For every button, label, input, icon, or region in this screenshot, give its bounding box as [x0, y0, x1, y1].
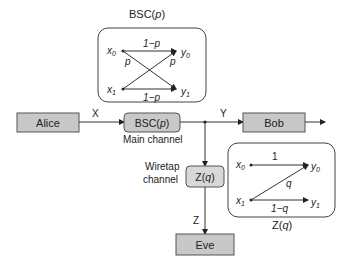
alice-node: Alice	[17, 113, 79, 132]
z-detail-title: Z(q)	[272, 219, 292, 231]
bsc-y0-label: y0	[180, 47, 190, 59]
eve-node: Eve	[176, 234, 234, 255]
wiretap-channel-node: Z(q)	[186, 166, 224, 187]
z-cross-prob: q	[286, 178, 292, 189]
bsc-bottom-prob: 1−p	[143, 92, 160, 103]
x-signal-label: X	[92, 108, 99, 119]
z-signal-label: Z	[193, 215, 199, 226]
z-x1-label: x1	[235, 195, 245, 207]
z-bottom-prob: 1−q	[271, 203, 288, 214]
bob-node: Bob	[243, 113, 305, 132]
y-signal-label: Y	[220, 108, 227, 119]
wiretap-channel-diagram: BSC(p) x0 x1 y0 y1 1−p 1−p p p Alice X B…	[0, 0, 352, 264]
bsc-x1-label: x1	[106, 84, 116, 96]
z-y0-label: y0	[310, 161, 320, 173]
bsc-x0-label: x0	[106, 45, 116, 57]
bsc-cross-right-prob: p	[169, 56, 176, 67]
z-x0-label: x0	[235, 159, 245, 171]
wiretap-label: Z(q)	[195, 171, 214, 183]
eve-label: Eve	[196, 239, 215, 251]
main-channel-caption: Main channel	[123, 134, 182, 145]
bsc-top-prob: 1−p	[143, 38, 160, 49]
bsc-cross-left-prob: p	[124, 56, 131, 67]
z-y1-label: y1	[310, 197, 320, 209]
bob-label: Bob	[264, 117, 284, 129]
z-detail: x0 x1 y0 y1 1 q 1−q Z(q)	[228, 143, 335, 231]
bsc-detail: BSC(p) x0 x1 y0 y1 1−p 1−p p p	[98, 8, 206, 103]
z-top-prob: 1	[272, 151, 278, 162]
wiretap-caption-line2: channel	[143, 174, 178, 185]
alice-label: Alice	[36, 117, 60, 129]
main-channel-label: BSC(p)	[135, 117, 169, 129]
bsc-detail-title: BSC(p)	[129, 8, 165, 20]
wiretap-caption-line1: Wiretap	[145, 161, 180, 172]
main-channel-node: BSC(p) Main channel	[123, 113, 182, 145]
bsc-y1-label: y1	[180, 86, 190, 98]
